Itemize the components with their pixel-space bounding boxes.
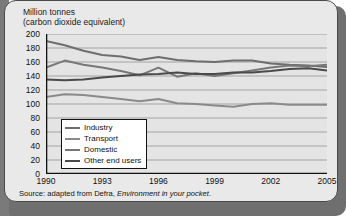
legend-label: Domestic (84, 144, 117, 155)
x-tick-label: 1996 (149, 176, 168, 186)
legend-item-transport: Transport (65, 133, 143, 144)
axis-title-line-1: Million tonnes (23, 7, 75, 17)
y-tick-label: 60 (31, 127, 40, 137)
legend-item-domestic: Domestic (65, 144, 143, 155)
y-tick-label: 40 (31, 141, 40, 151)
source-italic-title: Environment in your pocket (117, 189, 209, 198)
chart-card: Million tonnes(carbon dioxide equivalent… (4, 0, 338, 202)
legend-label: Transport (84, 133, 118, 144)
y-tick-label: 160 (26, 57, 40, 67)
axis-title-line-2: (carbon dioxide equivalent) (23, 17, 125, 27)
source-prefix: Source: adapted from Defra, (19, 189, 117, 198)
x-tick-label: 2005 (318, 176, 337, 186)
y-tick-label: 120 (26, 85, 40, 95)
x-tick-label: 1999 (205, 176, 224, 186)
y-tick-label: 80 (31, 113, 40, 123)
y-tick-label: 100 (26, 99, 40, 109)
x-axis-labels: 199019931996199920022005 (5, 176, 338, 190)
chart-axis-title: Million tonnes(carbon dioxide equivalent… (23, 7, 125, 27)
x-tick-label: 1993 (93, 176, 112, 186)
legend-swatch-icon (65, 138, 80, 140)
chart-legend: IndustryTransportDomesticOther end users (61, 119, 147, 169)
y-axis-labels: 020406080100120140160180200 (5, 34, 43, 174)
y-tick-label: 20 (31, 155, 40, 165)
y-tick-label: 180 (26, 43, 40, 53)
legend-label: Other end users (84, 155, 141, 166)
y-tick-label: 140 (26, 71, 40, 81)
legend-swatch-icon (65, 160, 80, 162)
source-note: Source: adapted from Defra, Environment … (19, 189, 211, 198)
y-tick-label: 200 (26, 29, 40, 39)
legend-swatch-icon (65, 149, 80, 151)
screenshot-root: Million tonnes(carbon dioxide equivalent… (0, 0, 346, 216)
legend-label: Industry (84, 122, 112, 133)
x-tick-label: 1990 (37, 176, 56, 186)
legend-swatch-icon (65, 127, 80, 129)
source-suffix: . (209, 189, 211, 198)
legend-item-industry: Industry (65, 122, 143, 133)
x-tick-label: 2002 (261, 176, 280, 186)
legend-item-other-end-users: Other end users (65, 155, 143, 166)
